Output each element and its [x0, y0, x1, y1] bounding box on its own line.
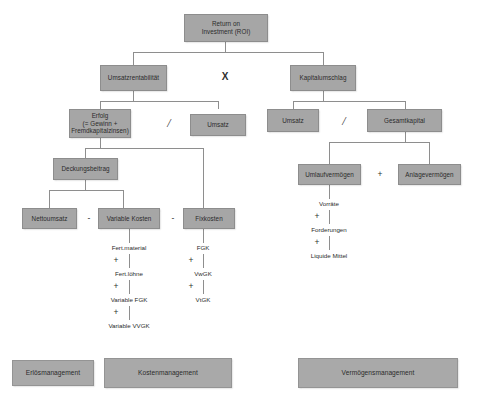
connector-to-erfolg — [100, 101, 101, 109]
connector-to-fixkosten — [203, 148, 204, 208]
node-umlaufvermoegen[interactable]: Umlaufvermögen — [298, 164, 361, 185]
connector-variable-kosten-chain-1 — [129, 254, 130, 268]
connector-deckungsbeitrag-stem — [85, 180, 86, 190]
node-umlaufvermoegen-label: Umlaufvermögen — [305, 171, 354, 178]
connector-umlaufvermoegen-chain-1 — [329, 210, 330, 224]
node-umsatzrentabilitaet-label: Umsatzrentabilität — [108, 74, 159, 81]
connector-erfolg-bus — [85, 148, 203, 149]
operator-minus-1: - — [82, 214, 96, 223]
node-umsatz-left[interactable]: Umsatz — [190, 114, 246, 136]
connector-to-umlaufvermoegen — [329, 142, 330, 164]
connector-umlaufvermoegen-chain-0 — [329, 185, 330, 199]
leaf-fixkosten-0: FGK — [181, 245, 225, 251]
connector-variable-kosten-chain-2 — [129, 280, 130, 294]
connector-to-deckungsbeitrag — [85, 148, 86, 158]
node-kapitalumschlag-label: Kapitalumschlag — [300, 74, 347, 81]
node-erfolg-line3: Fremdkapitalzinsen) — [71, 127, 129, 134]
leaf-umlaufvermoegen-0: Vorräte — [305, 201, 353, 207]
operator-multiply: X — [211, 72, 239, 82]
connector-gesamtkapital-bus — [329, 142, 429, 143]
roi-tree-diagram: Return on Investment (ROI) Umsatzrentabi… — [0, 0, 477, 402]
node-vermoegensmanagement-label: Vermögensmanagement — [342, 369, 415, 376]
leaf-umlaufvermoegen-1: Forderungen — [301, 227, 357, 233]
node-erfolg-line2: (= Gewinn + — [83, 120, 118, 127]
node-kapitalumschlag[interactable]: Kapitalumschlag — [290, 65, 356, 91]
node-kostenmanagement[interactable]: Kostenmanagement — [104, 358, 232, 388]
node-anlagevermoegen[interactable]: Anlagevermögen — [398, 164, 461, 185]
node-nettoumsatz-label: Nettoumsatz — [32, 215, 68, 222]
leaf-variable-kosten-2: Variable FGK — [97, 297, 161, 303]
node-kostenmanagement-label: Kostenmanagement — [138, 369, 198, 376]
node-deckungsbeitrag-label: Deckungsbeitrag — [61, 165, 109, 172]
connector-fixkosten-chain-0 — [203, 229, 204, 243]
connector-to-variable-kosten — [123, 190, 124, 208]
connector-roi-to-kapitalumschlag — [323, 52, 324, 65]
operator-plus-vk-2: + — [110, 282, 122, 291]
connector-deckungsbeitrag-bus — [49, 190, 123, 191]
connector-erfolg-stem — [100, 138, 101, 148]
operator-minus-2: - — [166, 214, 180, 223]
node-fixkosten[interactable]: Fixkosten — [183, 208, 235, 229]
node-anlagevermoegen-label: Anlagevermögen — [405, 171, 453, 178]
connector-fixkosten-chain-2 — [203, 280, 204, 294]
node-roi-line1: Return on — [212, 20, 240, 27]
leaf-variable-kosten-0: Fert.material — [99, 245, 159, 251]
connector-umsatzrentabilitaet-bus — [100, 101, 218, 102]
operator-plus-assets: + — [371, 170, 389, 179]
node-gesamtkapital-label: Gesamtkapital — [384, 117, 425, 124]
connector-to-umsatz-right — [293, 101, 294, 109]
operator-plus-vk-3: + — [110, 308, 122, 317]
connector-to-anlagevermoegen — [429, 142, 430, 164]
node-roi-text: Return on Investment (ROI) — [202, 20, 251, 36]
operator-divide-left: / — [158, 117, 180, 129]
node-erfolg[interactable]: Erfolg (= Gewinn + Fremdkapitalzinsen) — [69, 109, 131, 138]
node-erfolg-text: Erfolg (= Gewinn + Fremdkapitalzinsen) — [71, 112, 129, 136]
connector-roi-stem — [225, 42, 226, 52]
node-variable-kosten-label: Variable Kosten — [107, 215, 152, 222]
connector-roi-to-umsatzrentabilitaet — [133, 52, 134, 65]
node-variable-kosten[interactable]: Variable Kosten — [98, 208, 160, 229]
node-gesamtkapital[interactable]: Gesamtkapital — [367, 109, 442, 132]
connector-to-nettoumsatz — [49, 190, 50, 208]
connector-kapitalumschlag-stem — [323, 91, 324, 101]
connector-kapitalumschlag-bus — [293, 101, 405, 102]
node-erloesmanagement-label: Erlösmanagement — [26, 369, 80, 376]
connector-to-umsatz-left — [218, 101, 219, 109]
leaf-fixkosten-1: VwGK — [181, 271, 225, 277]
node-umsatz-right[interactable]: Umsatz — [267, 109, 319, 132]
connector-roi-bus — [133, 52, 323, 53]
connector-to-gesamtkapital — [405, 101, 406, 109]
operator-plus-vk-1: + — [110, 256, 122, 265]
operator-plus-fk-2: + — [185, 282, 197, 291]
node-erfolg-line1: Erfolg — [92, 112, 109, 119]
node-umsatz-right-label: Umsatz — [282, 117, 304, 124]
node-umsatzrentabilitaet[interactable]: Umsatzrentabilität — [100, 65, 167, 91]
node-nettoumsatz[interactable]: Nettoumsatz — [22, 208, 77, 229]
connector-umsatzrentabilitaet-stem — [133, 91, 134, 101]
node-roi-line2: Investment (ROI) — [202, 28, 251, 35]
connector-gesamtkapital-stem — [405, 132, 406, 142]
node-erloesmanagement[interactable]: Erlösmanagement — [12, 360, 94, 386]
node-vermoegensmanagement[interactable]: Vermögensmanagement — [298, 358, 458, 388]
connector-variable-kosten-chain-0 — [129, 229, 130, 243]
connector-variable-kosten-chain-3 — [129, 306, 130, 320]
leaf-umlaufvermoegen-2: Liquide Mittel — [299, 253, 359, 259]
operator-plus-fk-1: + — [185, 256, 197, 265]
operator-divide-right: / — [333, 115, 355, 127]
operator-plus-uv-1: + — [311, 212, 323, 221]
node-umsatz-left-label: Umsatz — [207, 121, 229, 128]
connector-umlaufvermoegen-chain-2 — [329, 236, 330, 250]
node-return-on-investment[interactable]: Return on Investment (ROI) — [184, 14, 268, 42]
connector-fixkosten-chain-1 — [203, 254, 204, 268]
leaf-variable-kosten-3: Variable VVGK — [95, 323, 163, 329]
operator-plus-uv-2: + — [311, 238, 323, 247]
leaf-fixkosten-2: VtGK — [181, 297, 225, 303]
node-deckungsbeitrag[interactable]: Deckungsbeitrag — [53, 158, 118, 180]
leaf-variable-kosten-1: Fert.löhne — [99, 271, 159, 277]
node-fixkosten-label: Fixkosten — [195, 215, 222, 222]
